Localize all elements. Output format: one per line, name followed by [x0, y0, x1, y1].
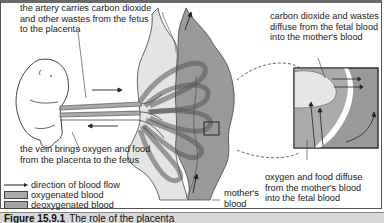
fetus-illustration: [16, 59, 68, 148]
caption-text: The role of the placenta: [69, 213, 174, 223]
legend-flow-label: direction of blood flow: [31, 180, 120, 190]
vein-label: the vein brings oxygen and food from the…: [20, 144, 150, 165]
legend-deoxygenated-label: deoxygenated blood: [31, 200, 114, 210]
deoxygenated-swatch: [4, 201, 28, 209]
o2-diffusion-label: oxygen and food diffuse from the mother'…: [265, 172, 362, 204]
co2-diffusion-label: carbon dioxide and wastes diffuse from t…: [270, 11, 379, 43]
legend-oxygenated: oxygenated blood: [4, 190, 120, 200]
mothers-blood-label: mother's blood: [224, 188, 259, 209]
artery-label: the artery carries carbon dioxide and ot…: [20, 3, 151, 35]
magnified-inset: [294, 68, 378, 160]
arrow-right-icon: [4, 181, 28, 189]
legend-oxygenated-label: oxygenated blood: [31, 190, 104, 200]
legend: direction of blood flow oxygenated blood…: [4, 180, 120, 210]
legend-flow: direction of blood flow: [4, 180, 120, 190]
oxygenated-swatch: [4, 191, 28, 199]
figure-caption: Figure 15.9.1The role of the placenta: [0, 212, 384, 223]
figure-number: Figure 15.9.1: [4, 213, 65, 223]
legend-deoxygenated: deoxygenated blood: [4, 200, 120, 210]
magnify-guide: [237, 63, 300, 158]
